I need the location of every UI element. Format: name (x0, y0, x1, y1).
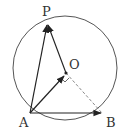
label-B: B (106, 115, 116, 130)
vector-AO (30, 76, 64, 113)
label-O: O (69, 57, 80, 72)
vector-AP (30, 25, 47, 113)
point-O-dot (64, 71, 67, 74)
segment-OB-dashed (66, 73, 102, 113)
label-A: A (18, 115, 29, 130)
label-P: P (42, 4, 51, 19)
geometry-diagram: P O A B (0, 0, 126, 133)
circumcircle (13, 16, 117, 120)
vector-OP (48, 25, 66, 73)
